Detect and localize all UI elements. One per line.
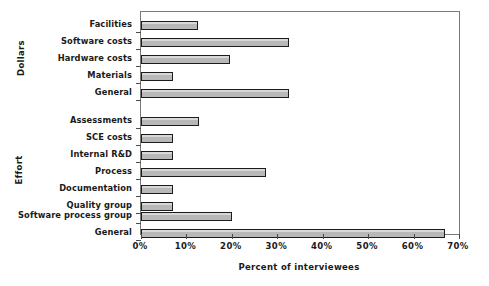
bar-chart: Dollars Effort Facilities Software costs…: [0, 0, 489, 286]
y-axis-tick: [136, 145, 141, 146]
y-axis-tick: [136, 66, 141, 67]
bar: [141, 21, 198, 30]
y-axis-tick: [136, 162, 141, 163]
category-label: Software costs: [61, 36, 132, 47]
bar: [141, 168, 266, 177]
x-axis-tick-label: 0%: [120, 241, 160, 251]
x-axis-tick: [459, 234, 460, 239]
category-label: Documentation: [59, 183, 132, 194]
category-label: SCE costs: [86, 132, 132, 143]
y-axis-tick: [136, 128, 141, 129]
x-axis-tick: [368, 234, 369, 239]
bar: [141, 212, 232, 221]
x-axis-tick-label: 60%: [393, 241, 433, 251]
category-label: General: [95, 87, 132, 98]
x-axis-tick-label: 30%: [256, 241, 296, 251]
xaxis-title: Percent of interviewees: [140, 262, 458, 272]
x-axis-tick-label: 50%: [347, 241, 387, 251]
bar: [141, 117, 199, 126]
x-axis-tick-label: 10%: [165, 241, 205, 251]
x-axis-tick-label: 40%: [302, 241, 342, 251]
x-axis-tick: [414, 234, 415, 239]
bar: [141, 72, 173, 81]
category-label: Internal R&D: [70, 149, 132, 160]
category-axis-labels: Facilities Software costs Hardware costs…: [0, 11, 136, 233]
x-axis-tick: [186, 234, 187, 239]
category-label: Facilities: [89, 19, 132, 30]
x-axis-tick: [277, 234, 278, 239]
category-label: Software process group: [18, 210, 132, 221]
plot-area: [140, 11, 460, 235]
bar: [141, 202, 173, 211]
y-axis-tick: [136, 100, 141, 101]
bar: [141, 134, 173, 143]
y-axis-tick: [136, 83, 141, 84]
x-axis-tick-label: 20%: [211, 241, 251, 251]
x-axis-tick-label: 70%: [438, 241, 478, 251]
y-axis-tick: [136, 223, 141, 224]
x-axis-tick: [232, 234, 233, 239]
bar: [141, 38, 289, 47]
bar: [141, 185, 173, 194]
x-axis-tick: [323, 234, 324, 239]
category-label: Assessments: [70, 115, 132, 126]
category-label: Hardware costs: [58, 53, 132, 64]
y-axis-tick: [136, 179, 141, 180]
bar: [141, 89, 289, 98]
plot-inner: [141, 12, 459, 234]
x-axis-tick: [141, 234, 142, 239]
category-label: Materials: [87, 70, 132, 81]
y-axis-tick: [136, 32, 141, 33]
y-axis-tick: [136, 49, 141, 50]
category-label: Process: [95, 166, 132, 177]
bar: [141, 151, 173, 160]
y-axis-tick: [136, 196, 141, 197]
bar: [141, 55, 230, 64]
category-label: General: [95, 227, 132, 238]
